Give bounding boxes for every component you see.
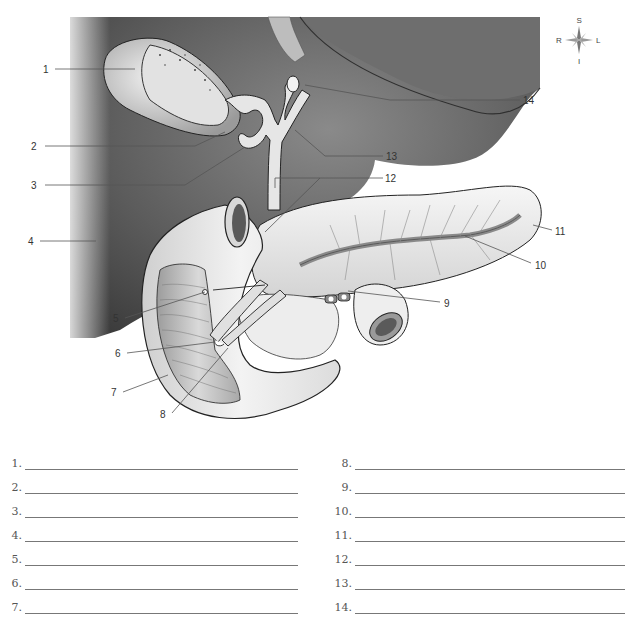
answer-row-9: 9.: [320, 478, 635, 498]
compass-right: R: [556, 36, 562, 45]
answer-blank[interactable]: [25, 517, 298, 518]
answer-row-8: 8.: [320, 454, 635, 474]
answer-number: 14.: [328, 601, 352, 614]
compass-inferior: I: [578, 57, 580, 66]
answer-blank[interactable]: [355, 589, 625, 590]
callout-11: 11: [555, 226, 566, 237]
callout-13: 13: [386, 151, 398, 162]
answer-blank[interactable]: [25, 541, 298, 542]
answer-number: 10.: [328, 505, 352, 518]
answer-number: 12.: [328, 553, 352, 566]
answer-blank[interactable]: [355, 541, 625, 542]
answer-blank[interactable]: [355, 613, 625, 614]
answer-blank[interactable]: [355, 517, 625, 518]
answer-blank[interactable]: [25, 565, 298, 566]
answer-number: 11.: [328, 529, 352, 542]
answer-number: 1.: [8, 457, 22, 470]
answer-row-10: 10.: [320, 502, 635, 522]
compass-rose-icon: S R L I: [556, 16, 601, 66]
answer-row-3: 3.: [0, 502, 320, 522]
answer-row-1: 1.: [0, 454, 320, 474]
answer-row-14: 14.: [320, 598, 635, 618]
callout-3: 3: [31, 180, 37, 191]
callout-4: 4: [28, 236, 34, 247]
answer-row-4: 4.: [0, 526, 320, 546]
answer-row-13: 13.: [320, 574, 635, 594]
callout-9: 9: [444, 298, 450, 309]
answer-row-2: 2.: [0, 478, 320, 498]
answer-row-7: 7.: [0, 598, 320, 618]
answer-number: 7.: [8, 601, 22, 614]
answer-number: 4.: [8, 529, 22, 542]
answer-blank[interactable]: [25, 613, 298, 614]
anatomy-illustration: 1 2 3 4 5 6 7 8 9 10 11 12 13 14 S R L I: [0, 0, 635, 430]
answer-number: 6.: [8, 577, 22, 590]
answer-row-11: 11.: [320, 526, 635, 546]
answer-blank[interactable]: [355, 469, 625, 470]
answer-blank[interactable]: [25, 493, 298, 494]
answer-blank[interactable]: [355, 565, 625, 566]
callout-2: 2: [31, 141, 37, 152]
answer-blank[interactable]: [355, 493, 625, 494]
callout-1: 1: [43, 64, 49, 75]
answer-number: 13.: [328, 577, 352, 590]
answer-row-12: 12.: [320, 550, 635, 570]
callout-12: 12: [385, 173, 397, 184]
answer-row-6: 6.: [0, 574, 320, 594]
callout-6: 6: [115, 348, 121, 359]
answer-blank[interactable]: [25, 589, 298, 590]
answer-row-5: 5.: [0, 550, 320, 570]
callout-5: 5: [113, 313, 119, 324]
compass-superior: S: [577, 16, 582, 25]
compass-left: L: [596, 36, 601, 45]
callout-14: 14: [523, 95, 535, 106]
answer-number: 5.: [8, 553, 22, 566]
callout-7: 7: [111, 387, 117, 398]
callout-10: 10: [535, 260, 547, 271]
answer-number: 3.: [8, 505, 22, 518]
callout-8: 8: [160, 409, 166, 420]
answer-number: 9.: [328, 481, 352, 494]
answer-number: 8.: [328, 457, 352, 470]
answer-number: 2.: [8, 481, 22, 494]
answer-blank[interactable]: [25, 469, 298, 470]
